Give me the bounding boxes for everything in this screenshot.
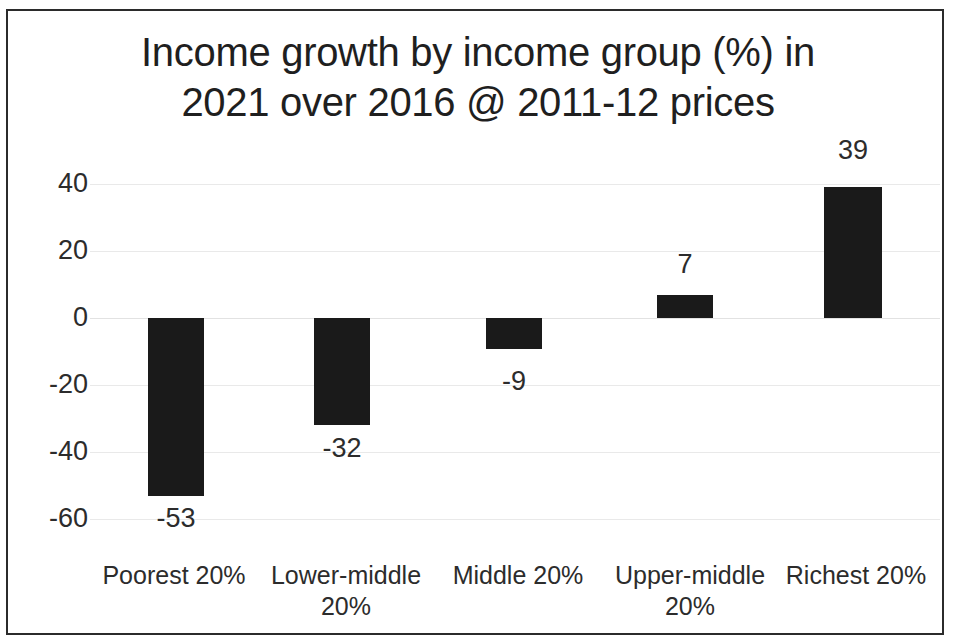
x-axis-label-lower-middle-20-line-2: 20% xyxy=(321,592,371,620)
y-axis-tick-0: 0 xyxy=(16,304,88,331)
data-label-richest-20: 39 xyxy=(803,136,903,164)
x-axis-label-lower-middle-20-line-1: Lower-middle xyxy=(271,561,421,589)
x-axis-label-upper-middle-20-line-2: 20% xyxy=(665,592,715,620)
bar-lower-middle-20[interactable] xyxy=(314,318,370,425)
gridline-40 xyxy=(90,184,940,185)
bar-poorest-20[interactable] xyxy=(148,318,204,496)
y-axis-tick-20: 20 xyxy=(16,237,88,264)
y-axis-tick-m20: -20 xyxy=(16,371,88,398)
x-axis-label-upper-middle-20: Upper-middle 20% xyxy=(604,560,776,622)
y-axis-tick-m40: -40 xyxy=(16,438,88,465)
x-axis-label-lower-middle-20: Lower-middle 20% xyxy=(260,560,432,622)
data-label-middle-20: -9 xyxy=(464,367,564,395)
x-axis-label-upper-middle-20-line-1: Upper-middle xyxy=(615,561,765,589)
x-axis-label-richest-20-line-1: Richest 20% xyxy=(786,561,926,589)
data-label-poorest-20: -53 xyxy=(126,504,226,532)
chart-title-line-2: 2021 over 2016 @ 2011-12 prices xyxy=(48,77,908,127)
data-label-lower-middle-20: -32 xyxy=(292,434,392,462)
gridline-m40 xyxy=(90,452,940,453)
chart-title: Income growth by income group (%) in 202… xyxy=(48,27,908,127)
bar-richest-20[interactable] xyxy=(824,187,882,318)
chart-frame: Income growth by income group (%) in 202… xyxy=(6,9,944,635)
gridline-20 xyxy=(90,251,940,252)
bar-upper-middle-20[interactable] xyxy=(657,295,713,318)
x-axis-label-richest-20: Richest 20% xyxy=(770,560,942,591)
y-axis-tick-40: 40 xyxy=(16,170,88,197)
chart-title-line-1: Income growth by income group (%) in xyxy=(48,27,908,77)
y-axis-tick-m60: -60 xyxy=(16,505,88,532)
data-label-upper-middle-20: 7 xyxy=(635,250,735,278)
x-axis-label-middle-20: Middle 20% xyxy=(432,560,604,591)
bar-middle-20[interactable] xyxy=(486,318,542,349)
plot-area: -53 -32 -9 7 39 xyxy=(90,162,940,540)
x-axis-label-middle-20-line-1: Middle 20% xyxy=(453,561,584,589)
x-axis-label-poorest-20-line-1: Poorest 20% xyxy=(102,561,245,589)
x-axis-label-poorest-20: Poorest 20% xyxy=(88,560,260,591)
